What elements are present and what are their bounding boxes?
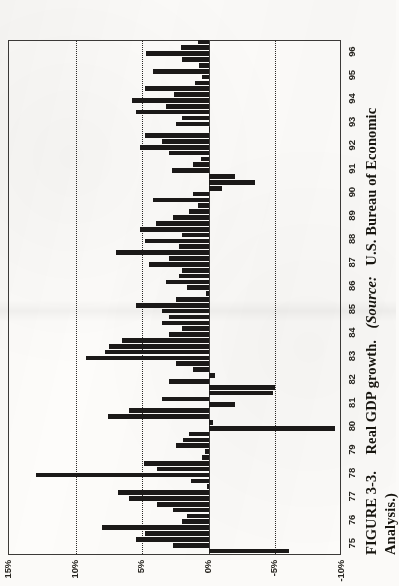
bar-93Q3 bbox=[182, 116, 209, 121]
bar-96Q1 bbox=[182, 57, 209, 62]
bar-95Q3 bbox=[153, 69, 209, 74]
bar-75Q1 bbox=[209, 549, 289, 554]
bar-87Q1 bbox=[182, 268, 209, 273]
bar-91Q1 bbox=[209, 174, 236, 179]
bar-89Q2 bbox=[173, 215, 209, 220]
bar-87Q2 bbox=[149, 262, 209, 267]
bar-85Q4 bbox=[176, 297, 209, 302]
year-tick-95: 95 bbox=[346, 63, 357, 87]
bar-75Q4 bbox=[145, 531, 209, 536]
bar-94Q2 bbox=[132, 98, 209, 103]
bar-88Q4 bbox=[140, 227, 209, 232]
bar-85Q3 bbox=[136, 303, 209, 308]
bar-81Q2 bbox=[209, 402, 236, 407]
zero-line bbox=[209, 41, 210, 554]
bar-81Q1 bbox=[129, 408, 209, 413]
bar-83Q2 bbox=[86, 356, 209, 361]
bar-76Q1 bbox=[102, 525, 209, 530]
figure-caption-source-open: (Source: bbox=[363, 276, 379, 328]
year-tick-77: 77 bbox=[346, 484, 357, 508]
bar-91Q4 bbox=[201, 157, 209, 162]
bar-92Q1 bbox=[169, 151, 209, 156]
bar-80Q3 bbox=[209, 420, 213, 425]
figure-caption-line-1: FIGURE 3-3. Real GDP growth. (Source: U.… bbox=[363, 15, 380, 555]
figure-caption-label: FIGURE 3-3. bbox=[363, 471, 379, 555]
bar-76Q3 bbox=[187, 514, 208, 519]
value-tick-5: 5% bbox=[135, 556, 146, 586]
year-tick-93: 93 bbox=[346, 110, 357, 134]
bar-78Q3 bbox=[157, 467, 209, 472]
bar-89Q1 bbox=[156, 221, 209, 226]
bar-78Q1 bbox=[191, 479, 208, 484]
bar-88Q3 bbox=[182, 233, 209, 238]
bar-87Q3 bbox=[169, 256, 209, 261]
bar-91Q3 bbox=[193, 163, 209, 168]
bar-80Q4 bbox=[108, 414, 209, 419]
bar-84Q1 bbox=[122, 338, 209, 343]
bar-82Q4 bbox=[193, 367, 209, 372]
bar-77Q4 bbox=[207, 484, 208, 489]
year-tick-79: 79 bbox=[346, 438, 357, 462]
bar-87Q4 bbox=[116, 250, 209, 255]
bar-80Q2 bbox=[209, 426, 336, 431]
bar-82Q2 bbox=[169, 379, 209, 384]
bar-86Q2 bbox=[187, 285, 208, 290]
bar-77Q3 bbox=[118, 490, 209, 495]
bar-96Q3 bbox=[181, 45, 209, 50]
year-tick-92: 92 bbox=[346, 133, 357, 157]
bar-79Q1 bbox=[202, 455, 209, 460]
bar-88Q1 bbox=[179, 244, 208, 249]
bar-92Q3 bbox=[162, 139, 209, 144]
bar-93Q2 bbox=[176, 122, 209, 127]
bar-80Q1 bbox=[189, 432, 209, 437]
bar-83Q1 bbox=[176, 361, 209, 366]
bar-76Q4 bbox=[173, 508, 209, 513]
bar-86Q4 bbox=[179, 274, 208, 279]
value-tick-10: 10% bbox=[69, 556, 80, 586]
bar-84Q2 bbox=[169, 332, 209, 337]
bar-77Q2 bbox=[129, 496, 209, 501]
bar-90Q2 bbox=[193, 192, 209, 197]
chart-plot-area bbox=[8, 40, 341, 555]
bar-93Q1 bbox=[209, 127, 210, 132]
bar-96Q2 bbox=[146, 51, 209, 56]
figure-caption-title: Real GDP growth. bbox=[363, 340, 379, 455]
year-tick-78: 78 bbox=[346, 461, 357, 485]
bar-86Q1 bbox=[206, 291, 209, 296]
bar-95Q4 bbox=[199, 63, 208, 68]
year-tick-94: 94 bbox=[346, 87, 357, 111]
year-tick-89: 89 bbox=[346, 204, 357, 228]
year-tick-76: 76 bbox=[346, 508, 357, 532]
figure-caption-source-cont: Analysis.) bbox=[382, 493, 398, 555]
year-tick-86: 86 bbox=[346, 274, 357, 298]
bar-77Q1 bbox=[157, 502, 209, 507]
bar-90Q1 bbox=[153, 198, 209, 203]
bar-89Q3 bbox=[189, 209, 209, 214]
value-tick-0: 0% bbox=[202, 556, 213, 586]
year-tick-75: 75 bbox=[346, 531, 357, 555]
bar-85Q2 bbox=[162, 309, 209, 314]
bar-96Q4 bbox=[198, 40, 209, 45]
value-tick-neg5: -5% bbox=[268, 556, 279, 586]
bar-81Q3 bbox=[162, 397, 209, 402]
year-tick-80: 80 bbox=[346, 414, 357, 438]
bar-95Q2 bbox=[202, 75, 209, 80]
bar-90Q4 bbox=[209, 180, 256, 185]
figure-caption-line-2: Analysis.) bbox=[382, 15, 399, 555]
bar-95Q1 bbox=[195, 81, 208, 86]
figure-caption-source: U.S. Bureau of Economic bbox=[363, 108, 379, 266]
year-tick-90: 90 bbox=[346, 180, 357, 204]
year-tick-88: 88 bbox=[346, 227, 357, 251]
bar-91Q2 bbox=[172, 168, 209, 173]
bar-75Q2 bbox=[173, 543, 209, 548]
year-tick-82: 82 bbox=[346, 367, 357, 391]
bar-79Q3 bbox=[176, 443, 209, 448]
year-tick-85: 85 bbox=[346, 297, 357, 321]
bar-83Q4 bbox=[109, 344, 209, 349]
bar-82Q3 bbox=[209, 373, 216, 378]
bar-92Q4 bbox=[145, 133, 209, 138]
bar-82Q1 bbox=[209, 385, 276, 390]
bar-83Q3 bbox=[105, 350, 209, 355]
